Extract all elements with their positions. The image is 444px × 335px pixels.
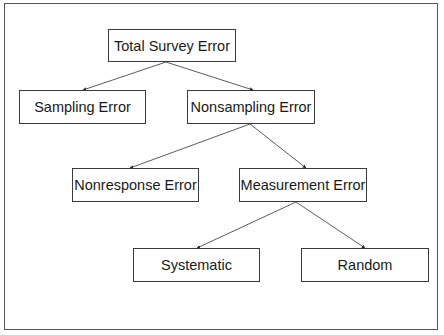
node-systematic: Systematic [133, 248, 260, 282]
node-random: Random [301, 248, 429, 282]
node-label: Measurement Error [241, 177, 366, 193]
node-sampling-error: Sampling Error [19, 90, 146, 124]
node-label: Sampling Error [34, 99, 131, 115]
node-label: Nonsampling Error [191, 99, 312, 115]
node-label: Random [338, 257, 393, 273]
node-measurement-error: Measurement Error [239, 168, 367, 202]
node-nonresponse-error: Nonresponse Error [72, 168, 199, 202]
node-label: Total Survey Error [114, 38, 230, 54]
node-label: Nonresponse Error [74, 177, 197, 193]
node-total-survey-error: Total Survey Error [108, 29, 236, 62]
node-label: Systematic [161, 257, 232, 273]
node-nonsampling-error: Nonsampling Error [187, 90, 315, 124]
